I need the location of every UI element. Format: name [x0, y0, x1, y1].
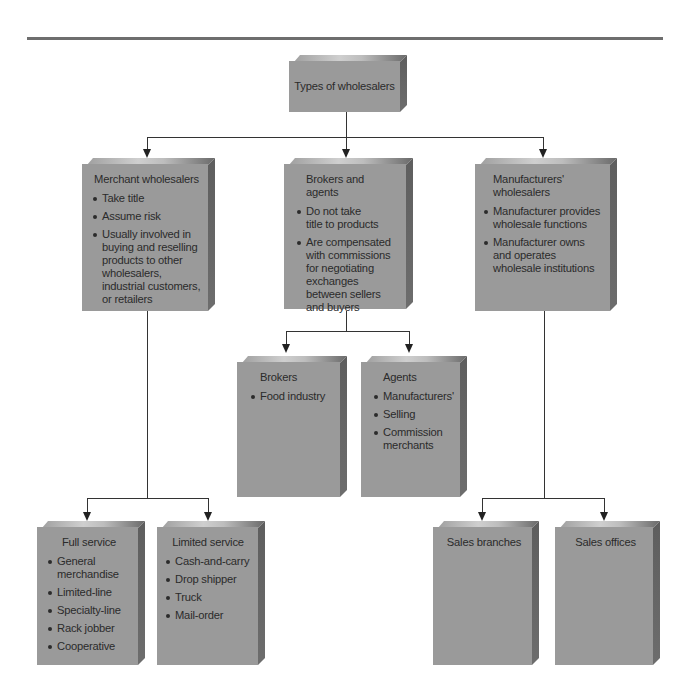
- connector-sales-branches-drop: [482, 498, 483, 512]
- bullet-list: General merchandise Limited-line Special…: [47, 555, 131, 653]
- bullet-item: Manufacturer owns and operates wholesale…: [483, 236, 603, 275]
- box-sales-offices: Sales offices: [555, 521, 660, 665]
- box-full-service: Full service General merchandise Limited…: [37, 521, 145, 665]
- root-label: Types of wholesalers: [294, 80, 394, 93]
- connector-level3-merchant-horizontal: [87, 498, 209, 499]
- box-bevel-side: [340, 356, 347, 497]
- bullet-item: Specialty-line: [47, 604, 131, 617]
- bullet-list: Manufacturers' Selling Commission mercha…: [373, 390, 453, 452]
- box-limited-service: Limited service Cash-and-carry Drop ship…: [157, 521, 265, 665]
- connector-manufacturers-drop: [543, 137, 544, 149]
- box-title: Brokers and agents: [296, 173, 399, 199]
- box-bevel-side: [138, 521, 145, 665]
- bullet-item: Commission merchants: [373, 426, 453, 452]
- bullet-list: Take title Assume risk Usually involved …: [92, 192, 201, 306]
- connector-level3-manufacturer-horizontal: [482, 498, 605, 499]
- box-title: Limited service: [165, 536, 251, 549]
- bullet-item: Cash-and-carry: [165, 555, 251, 568]
- box-bevel-side: [400, 55, 407, 112]
- connector-merchant-down: [147, 311, 148, 498]
- box-bevel-side: [610, 158, 617, 311]
- box-brokers: Brokers Food industry: [237, 356, 347, 497]
- bullet-item: Are compensated with commissions for neg…: [296, 236, 399, 314]
- bullet-item: General merchandise: [47, 555, 131, 581]
- box-title: Sales offices: [565, 536, 646, 549]
- connector-sales-offices-drop: [604, 498, 605, 512]
- box-bevel-side: [258, 521, 265, 665]
- connector-manufacturers-down: [544, 311, 545, 498]
- arrow-down-icon: [83, 512, 91, 521]
- connector-brokers-agents-down: [346, 311, 347, 331]
- box-bevel-side: [406, 158, 413, 309]
- box-merchant-wholesalers: Merchant wholesalers Take title Assume r…: [82, 158, 215, 311]
- box-sales-branches: Sales branches: [433, 521, 539, 665]
- bullet-list: Do not take title to products Are compen…: [296, 205, 399, 314]
- connector-level2-horizontal: [286, 331, 410, 332]
- bullet-item: Selling: [373, 408, 453, 421]
- bullet-list: Cash-and-carry Drop shipper Truck Mail-o…: [165, 555, 251, 622]
- bullet-item: Do not take title to products: [296, 205, 399, 231]
- box-title: Sales branches: [443, 536, 525, 549]
- bullet-item: Food industry: [250, 390, 333, 403]
- box-bevel-side: [460, 356, 467, 497]
- arrow-down-icon: [143, 149, 151, 158]
- bullet-item: Truck: [165, 591, 251, 604]
- connector-root-down: [346, 112, 347, 137]
- box-title: Full service: [47, 536, 131, 549]
- bullet-item: Assume risk: [92, 210, 201, 223]
- top-rule: [27, 37, 663, 40]
- box-manufacturers-wholesalers: Manufacturers' wholesalers Manufacturer …: [475, 158, 617, 311]
- connector-limited-service-drop: [208, 498, 209, 512]
- connector-merchant-drop: [147, 137, 148, 149]
- box-title: Agents: [373, 371, 453, 384]
- arrow-down-icon: [342, 149, 350, 158]
- bullet-item: Usually involved in buying and reselling…: [92, 228, 201, 306]
- bullet-item: Drop shipper: [165, 573, 251, 586]
- arrow-down-icon: [600, 512, 608, 521]
- arrow-down-icon: [478, 512, 486, 521]
- arrow-down-icon: [282, 344, 290, 353]
- bullet-item: Rack jobber: [47, 622, 131, 635]
- bullet-item: Limited-line: [47, 586, 131, 599]
- connector-full-service-drop: [87, 498, 88, 512]
- bullet-list: Food industry: [250, 390, 333, 403]
- connector-agents-drop: [409, 331, 410, 344]
- box-brokers-and-agents: Brokers and agents Do not take title to …: [284, 158, 413, 309]
- root-box-types-of-wholesalers: Types of wholesalers: [289, 55, 407, 112]
- box-bevel-side: [653, 521, 660, 665]
- connector-brokers-agents-drop: [346, 137, 347, 149]
- bullet-list: Manufacturer provides wholesale function…: [483, 205, 603, 275]
- connector-brokers-drop: [286, 331, 287, 344]
- box-title: Merchant wholesalers: [92, 173, 201, 186]
- box-bevel-side: [208, 158, 215, 311]
- bullet-item: Cooperative: [47, 640, 131, 653]
- box-title: Manufacturers' wholesalers: [483, 173, 603, 199]
- arrow-down-icon: [405, 344, 413, 353]
- bullet-item: Manufacturer provides wholesale function…: [483, 205, 603, 231]
- box-agents: Agents Manufacturers' Selling Commission…: [361, 356, 467, 497]
- box-bevel-side: [532, 521, 539, 665]
- arrow-down-icon: [204, 512, 212, 521]
- bullet-item: Manufacturers': [373, 390, 453, 403]
- arrow-down-icon: [539, 149, 547, 158]
- bullet-item: Take title: [92, 192, 201, 205]
- bullet-item: Mail-order: [165, 609, 251, 622]
- box-title: Brokers: [250, 371, 333, 384]
